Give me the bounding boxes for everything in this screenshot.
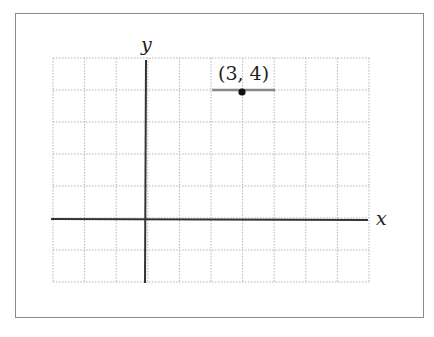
coordinate-plane: (3, 4) y x (0, 0, 434, 337)
point-label: (3, 4) (218, 62, 269, 84)
x-axis (51, 219, 368, 220)
x-axis-label: x (376, 207, 387, 229)
y-axis-label: y (140, 33, 152, 55)
point-marker (238, 88, 245, 95)
y-axis (145, 60, 146, 283)
grid-lines (53, 58, 369, 282)
